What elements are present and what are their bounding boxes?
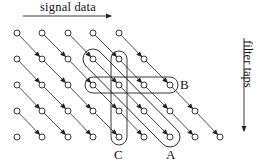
edge-arrow <box>121 113 142 134</box>
edge-arrow <box>146 61 167 82</box>
edge-arrow <box>19 35 39 56</box>
edge-arrow <box>70 113 91 134</box>
edge-arrow <box>146 87 167 108</box>
node-circle <box>192 108 198 114</box>
node-circle <box>65 30 71 36</box>
node-circle <box>116 134 122 140</box>
node-circle <box>167 134 173 140</box>
edge-arrow <box>44 113 65 134</box>
node-circle <box>39 82 45 88</box>
node-circle <box>90 134 96 140</box>
edge-arrow <box>146 113 167 134</box>
node-circle <box>167 108 173 114</box>
edge-arrow <box>44 61 65 82</box>
node-circle <box>39 56 45 62</box>
edge-arrow <box>95 113 116 134</box>
node-circle <box>141 108 147 114</box>
node-circle <box>116 108 122 114</box>
filter-taps-label: filter taps <box>240 40 255 88</box>
node-circle <box>90 30 96 36</box>
node-circle <box>116 30 122 36</box>
edge-arrow <box>70 35 91 56</box>
node-circle <box>39 30 45 36</box>
node-circle <box>14 108 20 114</box>
node-circle <box>65 82 71 88</box>
node-circle <box>141 82 147 88</box>
node-circle <box>90 108 96 114</box>
node-circle <box>14 134 20 140</box>
node-circle <box>65 56 71 62</box>
node-circle <box>65 108 71 114</box>
edge-arrow <box>44 35 65 56</box>
loop-c-label: C <box>114 147 123 163</box>
node-circle <box>14 82 20 88</box>
node-circle <box>39 134 45 140</box>
edge-arrow <box>197 113 218 134</box>
signal-data-label: signal data <box>40 0 96 15</box>
node-circle <box>14 56 20 62</box>
node-circle <box>90 82 96 88</box>
systolic-array-diagram <box>0 0 265 165</box>
node-circle <box>14 30 20 36</box>
edge-arrow <box>172 113 193 134</box>
node-circle <box>116 56 122 62</box>
node-circle <box>116 82 122 88</box>
loop-a-label: A <box>166 147 175 163</box>
node-circle <box>90 56 96 62</box>
node-circle <box>141 134 147 140</box>
edge-arrow <box>95 61 116 82</box>
node-circle <box>167 82 173 88</box>
node-circle <box>141 56 147 62</box>
edge-arrow <box>121 61 142 82</box>
edge-arrow <box>19 61 39 82</box>
node-circle <box>65 134 71 140</box>
edge-arrow <box>44 87 65 108</box>
edge-arrow <box>19 113 39 134</box>
loop-b-label: B <box>180 77 189 93</box>
node-circle <box>217 134 223 140</box>
edge-arrow <box>19 87 39 108</box>
node-circle <box>192 134 198 140</box>
edge-arrow <box>95 87 116 108</box>
node-circle <box>39 108 45 114</box>
